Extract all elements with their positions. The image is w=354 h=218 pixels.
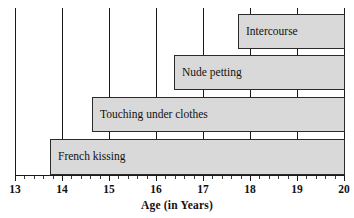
xtick-label-14: 14 (56, 183, 68, 195)
plot-area: Intercourse Nude petting Touching under … (0, 0, 354, 218)
tick-minor (335, 176, 336, 179)
tick-minor (71, 176, 72, 179)
tick-major-19 (297, 176, 298, 181)
tick-minor (222, 176, 223, 179)
tick-minor (81, 176, 82, 179)
bar-label-intercourse: Intercourse (239, 26, 298, 38)
tick-minor (175, 176, 176, 179)
bar-label-touching-under-clothes: Touching under clothes (93, 109, 208, 121)
tick-minor (316, 176, 317, 179)
bar-label-nude-petting: Nude petting (175, 67, 242, 79)
tick-minor (165, 176, 166, 179)
bar-french-kissing: French kissing (50, 139, 345, 175)
xtick-label-17: 17 (197, 183, 209, 195)
xtick-label-16: 16 (150, 183, 162, 195)
bar-label-french-kissing: French kissing (51, 151, 125, 163)
tick-minor (100, 176, 101, 179)
tick-minor (90, 176, 91, 179)
xtick-label-15: 15 (103, 183, 115, 195)
bar-touching-under-clothes: Touching under clothes (92, 97, 345, 132)
bar-intercourse: Intercourse (238, 14, 345, 49)
tick-major-20 (344, 176, 345, 181)
gridline-13 (15, 8, 16, 175)
tick-minor (288, 176, 289, 179)
tick-major-18 (250, 176, 251, 181)
tick-minor (43, 176, 44, 179)
tick-minor (278, 176, 279, 179)
tick-major-14 (62, 176, 63, 181)
tick-minor (194, 176, 195, 179)
tick-minor (184, 176, 185, 179)
tick-minor (118, 176, 119, 179)
tick-minor (325, 176, 326, 179)
tick-minor (231, 176, 232, 179)
tick-minor (137, 176, 138, 179)
bar-nude-petting: Nude petting (174, 55, 345, 90)
tick-minor (212, 176, 213, 179)
tick-major-16 (156, 176, 157, 181)
tick-major-15 (109, 176, 110, 181)
tick-minor (241, 176, 242, 179)
tick-minor (269, 176, 270, 179)
x-axis-title: Age (in Years) (0, 199, 354, 211)
bar-chart: Intercourse Nude petting Touching under … (0, 0, 354, 218)
xtick-label-19: 19 (291, 183, 303, 195)
tick-minor (147, 176, 148, 179)
tick-minor (24, 176, 25, 179)
xtick-label-20: 20 (338, 183, 350, 195)
xtick-label-13: 13 (9, 183, 21, 195)
xtick-label-18: 18 (244, 183, 256, 195)
tick-minor (34, 176, 35, 179)
tick-minor (53, 176, 54, 179)
tick-major-13 (15, 176, 16, 181)
tick-major-17 (203, 176, 204, 181)
x-axis-line (15, 175, 345, 176)
tick-minor (128, 176, 129, 179)
tick-minor (259, 176, 260, 179)
tick-minor (306, 176, 307, 179)
